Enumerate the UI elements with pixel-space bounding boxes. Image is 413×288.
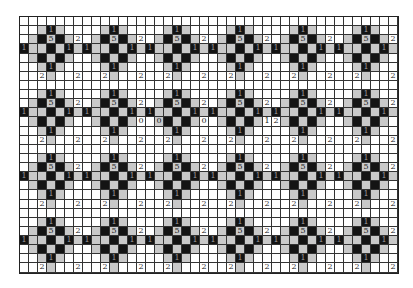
grid-cell[interactable]	[317, 90, 326, 99]
clue-cell[interactable]: 2	[200, 227, 209, 236]
grid-cell[interactable]	[182, 218, 191, 227]
clue-cell[interactable]: 5	[173, 227, 182, 236]
clue-cell[interactable]: 2	[290, 263, 299, 272]
grid-cell[interactable]	[308, 63, 317, 72]
grid-cell[interactable]	[29, 35, 38, 44]
clue-cell[interactable]: 1	[272, 44, 281, 53]
grid-cell[interactable]	[110, 200, 119, 209]
grid-cell[interactable]	[137, 245, 146, 254]
grid-cell[interactable]	[380, 145, 389, 154]
grid-cell[interactable]	[20, 263, 29, 272]
grid-cell[interactable]	[227, 90, 236, 99]
grid-cell[interactable]	[56, 17, 65, 26]
grid-cell[interactable]	[209, 218, 218, 227]
grid-cell[interactable]	[182, 163, 191, 172]
grid-cell[interactable]	[56, 90, 65, 99]
grid-cell[interactable]	[317, 81, 326, 90]
grid-cell[interactable]	[218, 218, 227, 227]
grid-cell[interactable]	[335, 54, 344, 63]
grid-cell[interactable]	[155, 63, 164, 72]
grid-cell[interactable]	[245, 172, 254, 181]
grid-cell[interactable]	[101, 145, 110, 154]
grid-cell[interactable]	[65, 90, 74, 99]
clue-cell[interactable]: 5	[299, 227, 308, 236]
grid-cell[interactable]	[344, 90, 353, 99]
clue-cell[interactable]: 1	[209, 108, 218, 117]
clue-cell[interactable]: 1	[191, 172, 200, 181]
clue-cell[interactable]: 1	[254, 44, 263, 53]
grid-cell[interactable]	[182, 154, 191, 163]
clue-cell[interactable]: 1	[254, 236, 263, 245]
grid-cell[interactable]	[128, 54, 137, 63]
grid-cell[interactable]	[56, 81, 65, 90]
grid-cell[interactable]	[353, 26, 362, 35]
grid-cell[interactable]	[38, 35, 47, 44]
grid-cell[interactable]	[65, 81, 74, 90]
grid-cell[interactable]	[92, 81, 101, 90]
grid-cell[interactable]	[155, 127, 164, 136]
grid-cell[interactable]	[119, 154, 128, 163]
grid-cell[interactable]	[245, 245, 254, 254]
grid-cell[interactable]	[308, 236, 317, 245]
grid-cell[interactable]	[164, 227, 173, 236]
grid-cell[interactable]	[281, 44, 290, 53]
clue-cell[interactable]: 2	[200, 35, 209, 44]
clue-cell[interactable]: 2	[137, 200, 146, 209]
clue-cell[interactable]: 1	[47, 63, 56, 72]
grid-cell[interactable]	[47, 172, 56, 181]
grid-cell[interactable]	[227, 117, 236, 126]
grid-cell[interactable]	[281, 154, 290, 163]
grid-cell[interactable]	[335, 218, 344, 227]
grid-cell[interactable]	[317, 72, 326, 81]
grid-cell[interactable]	[29, 108, 38, 117]
clue-cell[interactable]: 1	[317, 236, 326, 245]
grid-cell[interactable]	[182, 181, 191, 190]
grid-cell[interactable]	[128, 245, 137, 254]
grid-cell[interactable]	[128, 17, 137, 26]
grid-cell[interactable]	[272, 63, 281, 72]
clue-cell[interactable]: 2	[290, 200, 299, 209]
grid-cell[interactable]	[254, 263, 263, 272]
grid-cell[interactable]	[326, 17, 335, 26]
grid-cell[interactable]	[353, 181, 362, 190]
grid-cell[interactable]	[353, 99, 362, 108]
clue-cell[interactable]: 1	[83, 172, 92, 181]
grid-cell[interactable]	[344, 136, 353, 145]
grid-cell[interactable]	[173, 72, 182, 81]
grid-cell[interactable]	[371, 63, 380, 72]
grid-cell[interactable]	[209, 245, 218, 254]
grid-cell[interactable]	[254, 54, 263, 63]
grid-cell[interactable]	[299, 263, 308, 272]
grid-cell[interactable]	[83, 209, 92, 218]
grid-cell[interactable]	[29, 117, 38, 126]
grid-cell[interactable]	[38, 81, 47, 90]
grid-cell[interactable]	[308, 72, 317, 81]
clue-cell[interactable]: 2	[101, 200, 110, 209]
grid-cell[interactable]	[101, 163, 110, 172]
clue-cell[interactable]: 2	[290, 72, 299, 81]
grid-cell[interactable]	[182, 117, 191, 126]
grid-cell[interactable]	[191, 209, 200, 218]
grid-cell[interactable]	[245, 236, 254, 245]
grid-cell[interactable]	[371, 263, 380, 272]
grid-cell[interactable]	[101, 209, 110, 218]
grid-cell[interactable]	[92, 209, 101, 218]
grid-cell[interactable]	[218, 127, 227, 136]
grid-cell[interactable]	[380, 136, 389, 145]
grid-cell[interactable]	[20, 81, 29, 90]
grid-cell[interactable]	[335, 254, 344, 263]
grid-cell[interactable]	[65, 72, 74, 81]
grid-cell[interactable]	[29, 190, 38, 199]
grid-cell[interactable]	[380, 127, 389, 136]
grid-cell[interactable]	[128, 190, 137, 199]
clue-cell[interactable]: 2	[263, 200, 272, 209]
grid-cell[interactable]	[209, 26, 218, 35]
grid-cell[interactable]	[308, 90, 317, 99]
grid-cell[interactable]	[155, 236, 164, 245]
clue-cell[interactable]: 1	[146, 172, 155, 181]
grid-cell[interactable]	[83, 136, 92, 145]
grid-cell[interactable]	[290, 181, 299, 190]
clue-cell[interactable]: 2	[74, 263, 83, 272]
clue-cell[interactable]: 5	[173, 99, 182, 108]
grid-cell[interactable]	[317, 245, 326, 254]
